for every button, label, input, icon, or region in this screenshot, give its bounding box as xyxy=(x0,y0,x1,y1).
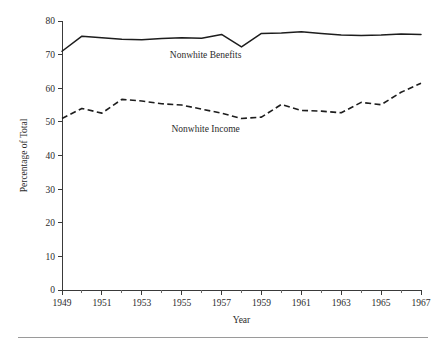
x-axis-tick-label: 1949 xyxy=(53,298,72,308)
x-axis-tick-label: 1951 xyxy=(92,298,111,308)
y-axis-tick-label: 80 xyxy=(46,16,56,26)
y-axis-tick-label: 50 xyxy=(46,117,56,127)
x-axis-tick-label: 1963 xyxy=(332,298,351,308)
y-axis-tick-label: 60 xyxy=(46,84,56,94)
y-axis-tick-label: 10 xyxy=(46,252,56,262)
x-axis-tick-label: 1957 xyxy=(212,298,231,308)
y-axis-tick-label: 40 xyxy=(46,151,56,161)
x-axis-tick-label: 1955 xyxy=(172,298,191,308)
y-axis-tick-label: 30 xyxy=(46,185,56,195)
series-line-nonwhite-benefits xyxy=(62,32,421,51)
x-axis-title: Year xyxy=(233,315,251,325)
x-axis-tick-label: 1967 xyxy=(412,298,431,308)
y-axis-tick-label: 20 xyxy=(46,218,56,228)
chart-figure: 0102030405060708019491951195319551957195… xyxy=(0,0,444,345)
axes: 0102030405060708019491951195319551957195… xyxy=(46,16,431,308)
x-axis-tick-label: 1965 xyxy=(372,298,391,308)
series-line-nonwhite-income xyxy=(62,83,421,118)
y-axis-title: Percentage of Total xyxy=(19,118,29,192)
y-axis-tick-label: 70 xyxy=(46,50,56,60)
x-axis-tick-label: 1953 xyxy=(132,298,151,308)
series-annotation-nonwhite-income: Nonwhite Income xyxy=(171,124,239,134)
data-series xyxy=(62,32,421,119)
x-axis-tick-label: 1961 xyxy=(292,298,311,308)
series-annotation-nonwhite-benefits: Nonwhite Benefits xyxy=(170,50,242,60)
x-axis-tick-label: 1959 xyxy=(252,298,271,308)
line-chart: 0102030405060708019491951195319551957195… xyxy=(0,0,444,345)
y-axis-tick-label: 0 xyxy=(50,285,55,295)
